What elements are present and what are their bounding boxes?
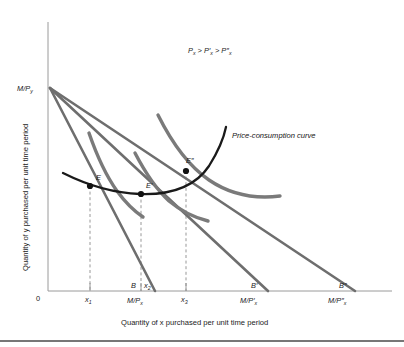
equilibrium-label-E: E — [96, 173, 101, 182]
x-intercept-label-mpx-double-prime: M/P″x — [328, 296, 347, 306]
xtick-label-x1: x1 — [84, 295, 92, 305]
x-intercept-label-mpx-prime: M/P′x — [240, 296, 258, 306]
price-consumption-curve-figure: Px > P′x > P″x M/Py 0 E E′ E″ Price-cons… — [0, 0, 404, 347]
y-intercept-sub: y — [29, 88, 33, 94]
y-axis-title: Quantity of y purchased per unit time pe… — [21, 124, 30, 271]
x-intercept-mpx-prime-sub: x — [254, 300, 258, 306]
x-intercept-label-mpx: M/Px — [127, 296, 143, 306]
xtick-x1-sub: 1 — [89, 299, 92, 305]
budget-label-B-double-prime: B″ — [339, 281, 347, 290]
x-intercept-mpx-prime-main: M/P′ — [240, 296, 255, 305]
budget-label-B: B — [131, 281, 136, 290]
budget-line-B-double-prime — [50, 88, 355, 291]
x-axis-ticks — [90, 283, 186, 291]
budget-line-B — [50, 88, 155, 291]
x-axis-title: Quantity of x purchased per unit time pe… — [121, 318, 268, 327]
xtick-x3-sub: 3 — [185, 299, 188, 305]
equilibrium-label-E-double-prime: E″ — [186, 156, 194, 165]
origin-label: 0 — [36, 294, 40, 303]
budget-lines-group — [50, 88, 355, 291]
y-intercept-label: M/Py — [17, 84, 33, 94]
indifference-curve-3 — [158, 115, 280, 197]
equilibrium-point-E — [87, 183, 93, 189]
x-intercept-mpx-dprime-sub: x — [343, 300, 347, 306]
y-intercept-main: M/P — [17, 84, 30, 93]
price-consumption-curve-label: Price-consumption curve — [232, 131, 316, 140]
xtick-x2-sub: 2 — [147, 285, 151, 291]
budget-label-B-prime: B′ — [251, 281, 258, 290]
x-intercept-mpx-dprime-main: M/P″ — [328, 296, 344, 305]
equilibrium-point-E-prime — [138, 191, 144, 197]
equilibrium-label-E-prime: E′ — [146, 181, 153, 190]
equilibrium-point-E-double-prime — [183, 168, 189, 174]
price-inequality-annotation: Px > P′x > P″x — [188, 46, 232, 56]
inequality-p3-sub: x — [228, 50, 232, 56]
svg-text:Px > P′x > P″x: Px > P′x > P″x — [188, 46, 232, 56]
x-intercept-mpx-main: M/P — [127, 296, 140, 305]
x-intercept-mpx-sub: x — [139, 300, 143, 306]
xtick-label-x3: x3 — [180, 295, 188, 305]
equilibrium-points-group — [87, 168, 189, 197]
